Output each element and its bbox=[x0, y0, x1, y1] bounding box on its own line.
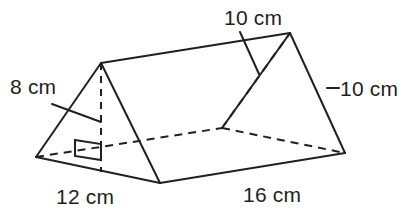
edge-front-right-slant bbox=[101, 63, 160, 183]
leader-line-slant-height bbox=[52, 104, 101, 122]
label-right-slant-edge: 10 cm bbox=[340, 77, 398, 100]
edge-back-left-slant-visible bbox=[222, 33, 290, 128]
edge-front-base bbox=[36, 157, 160, 183]
label-base-width: 12 cm bbox=[56, 185, 114, 208]
edge-bottom-long bbox=[160, 153, 345, 183]
figure-canvas: 8 cm 10 cm 10 cm 12 cm 16 cm bbox=[0, 0, 412, 217]
hidden-edge-back-base-right bbox=[222, 128, 345, 153]
label-slant-height: 8 cm bbox=[10, 75, 56, 98]
edge-top-ridge bbox=[101, 33, 290, 63]
triangular-prism-figure: 8 cm 10 cm 10 cm 12 cm 16 cm bbox=[0, 0, 412, 217]
hidden-edge-back-base-left bbox=[36, 128, 222, 157]
edge-back-right-slant bbox=[290, 33, 345, 153]
label-top-slant-edge: 10 cm bbox=[224, 6, 282, 29]
label-prism-length: 16 cm bbox=[243, 183, 301, 206]
